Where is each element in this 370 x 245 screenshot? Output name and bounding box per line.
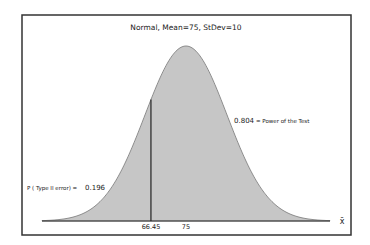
tick-mean: 75 [182, 223, 190, 231]
type2-error-label: P ( Type II error) = [27, 185, 78, 192]
chart-title: Normal, Mean=75, StDev=10 [130, 23, 242, 32]
normal-distribution-chart: Normal, Mean=75, StDev=10 P ( Type II er… [0, 0, 370, 245]
power-label: = Power of the Test [256, 118, 310, 124]
power-value: 0.804 [234, 117, 255, 125]
type2-error-value: 0.196 [85, 184, 106, 192]
tick-critical-value: 66.45 [142, 223, 161, 231]
x-bar-axis-symbol: x̄ [340, 217, 345, 226]
